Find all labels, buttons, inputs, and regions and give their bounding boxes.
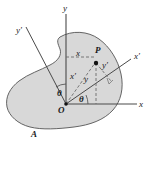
origin-marker xyxy=(64,102,68,106)
coord-y-prime-label: y′ xyxy=(101,60,109,70)
angle-theta-lower-label: θ xyxy=(79,94,84,104)
figure-container: y x y′ x′ O P A x y x′ y′ θ θ xyxy=(0,0,153,173)
coord-y-label: y xyxy=(83,74,88,84)
point-p-label: P xyxy=(95,45,101,55)
axis-x-label: x xyxy=(138,99,143,109)
origin-label: O xyxy=(58,105,65,115)
axis-x-prime-label: x′ xyxy=(133,51,141,61)
coord-x-prime-label: x′ xyxy=(69,71,77,81)
coord-x-label: x xyxy=(75,48,80,58)
angle-theta-upper-label: θ xyxy=(57,88,62,98)
axis-y-label: y xyxy=(62,3,67,13)
point-p-marker xyxy=(94,61,98,65)
diagram-svg: y x y′ x′ O P A x y x′ y′ θ θ xyxy=(0,0,153,173)
axis-y-prime-label: y′ xyxy=(15,25,23,35)
region-a-label: A xyxy=(30,129,37,139)
